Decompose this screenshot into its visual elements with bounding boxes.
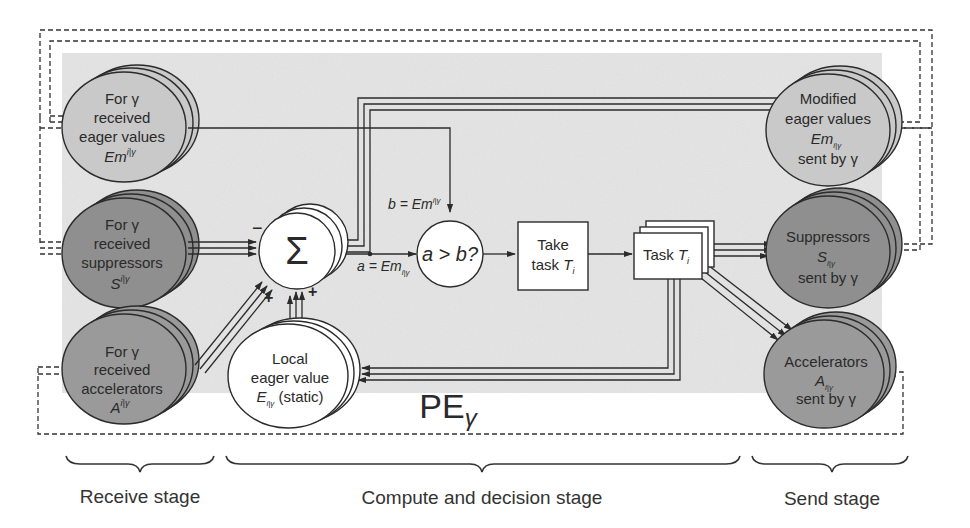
- received-eager-line3: eager values: [79, 128, 165, 145]
- node-compare: a > b?: [417, 221, 483, 287]
- pe-gamma-diagram: For γ received eager values Emi|γ For γ …: [0, 0, 970, 528]
- modified-eager-sent: sent by γ: [798, 150, 859, 167]
- stage-label-send: Send stage: [784, 488, 880, 509]
- local-line2: eager value: [251, 369, 329, 386]
- received-eager-line1: For γ: [105, 90, 140, 107]
- received-suppressors-line2: received: [94, 235, 151, 252]
- junction-dot: [368, 252, 373, 257]
- accelerators-sent-by: sent by γ: [796, 390, 857, 407]
- stage-label-compute: Compute and decision stage: [362, 487, 603, 508]
- received-accelerators-line1: For γ: [105, 343, 140, 360]
- suppressors-sent-by: sent by γ: [798, 269, 859, 286]
- received-accelerators-line2: received: [94, 361, 151, 378]
- plus-sign-local: +: [308, 283, 317, 300]
- suppressors-sent-line1: Suppressors: [786, 228, 870, 245]
- plus-sign-accelerators: +: [264, 289, 273, 306]
- receive-brace: [66, 456, 214, 472]
- received-eager-line2: received: [94, 109, 151, 126]
- node-take-task: Take task Ti: [518, 222, 588, 290]
- accelerators-sent-line1: Accelerators: [784, 353, 867, 370]
- received-suppressors-line3: suppressors: [81, 254, 163, 271]
- stage-label-receive: Receive stage: [80, 486, 200, 507]
- received-accelerators-line3: accelerators: [81, 380, 163, 397]
- sum-symbol: Σ: [285, 230, 309, 272]
- compute-brace: [226, 456, 740, 472]
- minus-sign: −: [252, 218, 263, 238]
- send-brace: [752, 456, 908, 472]
- take-task-line1: Take: [537, 236, 569, 253]
- received-suppressors-line1: For γ: [105, 216, 140, 233]
- modified-eager-line1: Modified: [800, 90, 857, 107]
- node-task: Task Ti: [634, 221, 714, 279]
- local-line1: Local: [272, 350, 308, 367]
- compare-label: a > b?: [422, 243, 479, 265]
- pe-title: PEγ: [419, 387, 478, 431]
- modified-eager-line2: eager values: [785, 110, 871, 127]
- stage-braces: [66, 456, 908, 472]
